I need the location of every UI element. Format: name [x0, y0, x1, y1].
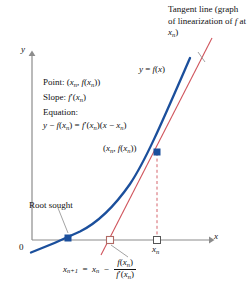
- point-coordinates-label: (xn, f(xn)): [103, 143, 137, 156]
- info-line-equation-heading: Equation:: [43, 106, 126, 119]
- curve-label: y = f(x): [139, 64, 165, 75]
- root-sought-label: Root sought: [29, 200, 73, 211]
- info-line-point: Point: (xn, f(xn)): [43, 76, 126, 91]
- x-n-tick-label: xn: [152, 244, 159, 257]
- origin-label: 0: [19, 242, 24, 253]
- newton-iteration-formula: xn+1 = xn − f(xn) f′(xn): [63, 258, 137, 281]
- y-axis-arrowhead: [29, 51, 36, 57]
- x-n-plus-1-leader-line: [111, 245, 128, 257]
- point-slope-equation-block: Point: (xn, f(xn)) Slope: f′(xn) Equatio…: [43, 76, 126, 134]
- newton-method-figure: Tangent line (graph of linearization of …: [0, 0, 247, 287]
- marker-x-n-plus-1: [107, 237, 114, 244]
- y-axis-label: y: [21, 44, 25, 55]
- info-line-slope: Slope: f′(xn): [43, 91, 126, 106]
- info-line-equation: y − f(xn) = f′(xn)(x − xn): [43, 119, 126, 134]
- formula-fraction: f(xn) f′(xn): [114, 258, 136, 281]
- root-sought-leader-line: [58, 208, 68, 233]
- tangent-line-note: Tangent line (graph of linearization of …: [168, 4, 246, 40]
- marker-point-xn-fxn: [154, 149, 161, 156]
- x-axis-label: x: [214, 231, 218, 242]
- marker-x-n-tick: [154, 237, 161, 244]
- fraction-numerator: f(xn): [114, 258, 136, 269]
- marker-root-sought: [65, 235, 72, 242]
- fraction-denominator: f′(xn): [114, 269, 136, 281]
